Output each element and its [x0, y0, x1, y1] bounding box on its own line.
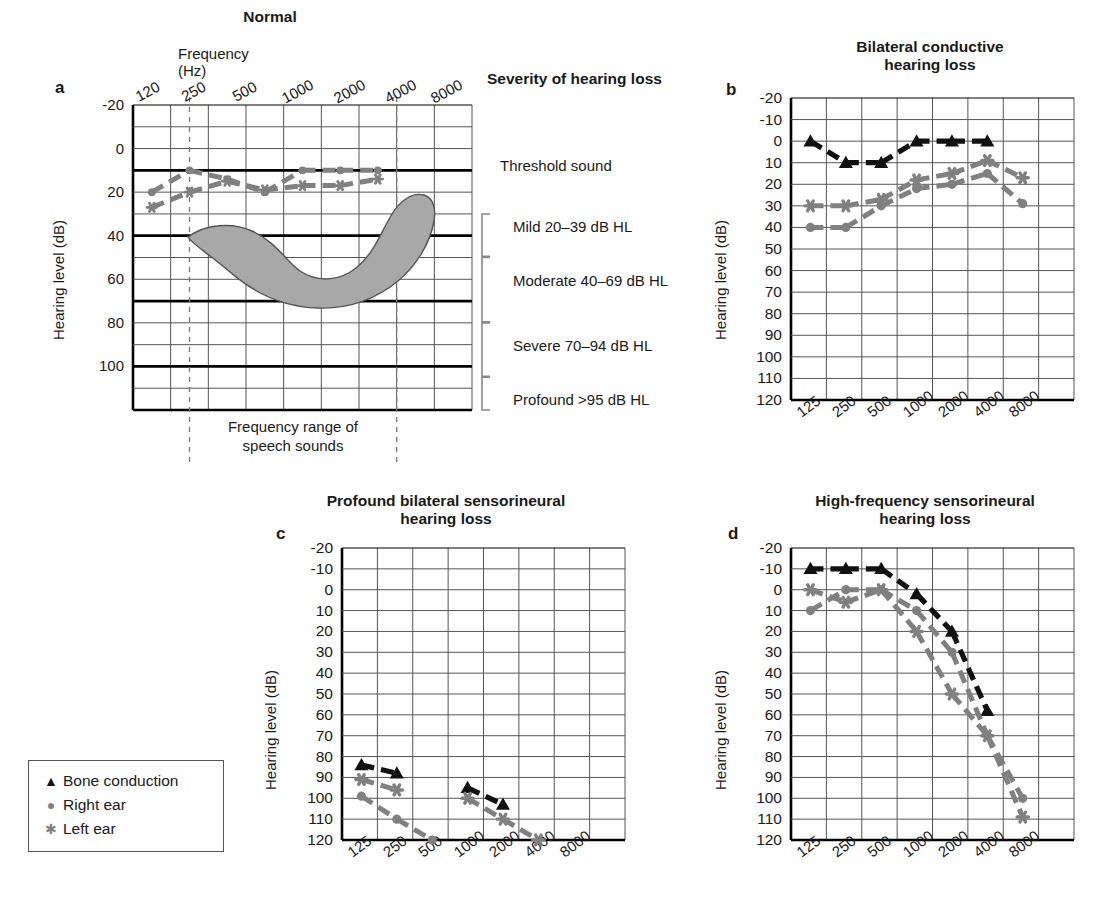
y-tick-label: 10	[765, 602, 783, 619]
circle-marker-icon: ●	[39, 797, 63, 813]
y-tick-label: 20	[765, 622, 783, 639]
legend-label-left-ear: Left ear	[63, 820, 116, 838]
y-tick-label: 50	[765, 685, 783, 702]
x-tick-label: 125	[793, 832, 823, 861]
y-tick-label: -20	[760, 539, 783, 556]
y-tick-label: 90	[765, 768, 783, 785]
legend-item-left-ear: ✱ Left ear	[29, 817, 223, 841]
legend: ▲ Bone conduction ● Right ear ✱ Left ear	[28, 760, 224, 852]
x-tick-label: 1000	[899, 827, 936, 861]
y-tick-label: 80	[765, 748, 783, 765]
y-tick-label: 100	[756, 789, 782, 806]
y-tick-label: 30	[765, 643, 783, 660]
triangle-marker-icon: ▲	[39, 773, 63, 789]
y-tick-label: 110	[757, 810, 782, 827]
x-tick-label: 2000	[935, 827, 972, 861]
series-left-ear	[805, 585, 1028, 822]
legend-item-bone-conduction: ▲ Bone conduction	[29, 769, 223, 793]
x-tick-label: 250	[829, 832, 859, 861]
legend-item-right-ear: ● Right ear	[29, 793, 223, 817]
y-tick-label: 40	[765, 664, 783, 681]
y-tick-label: 70	[765, 727, 783, 744]
y-tick-label: 60	[765, 706, 783, 723]
x-tick-label: 4000	[970, 827, 1007, 861]
asterisk-marker-icon: ✱	[39, 821, 63, 837]
legend-label-bone-conduction: Bone conduction	[63, 772, 178, 790]
series-bone-conduction	[803, 562, 994, 716]
y-tick-label: 120	[756, 831, 782, 848]
y-tick-label: -10	[760, 560, 783, 577]
x-tick-label: 8000	[1005, 827, 1042, 861]
y-tick-label: 0	[773, 581, 782, 598]
legend-label-right-ear: Right ear	[63, 796, 126, 814]
x-tick-label: 500	[864, 832, 894, 861]
